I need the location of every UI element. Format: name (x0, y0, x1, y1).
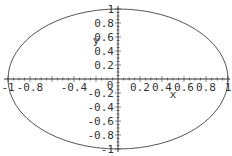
x-tick-label: -0.8 (17, 81, 44, 94)
x-tick-label: 0.2 (130, 81, 150, 94)
x-tick-label: 1 (225, 81, 232, 94)
x-tick-label: 0 (107, 79, 114, 92)
plot-area: 1 0.8 0.6 0.4 0.2 -0.2 -0.4 -0.6 -0.8 -1… (0, 0, 232, 156)
y-tick-label: -0.8 (88, 129, 115, 142)
y-tick-label: 1 (107, 3, 114, 16)
y-axis-label: y (93, 34, 100, 47)
x-axis-label: x (170, 88, 177, 101)
y-tick-label: -0.4 (88, 101, 115, 114)
y-tick-label: -0.6 (88, 115, 115, 128)
x-tick-label: 0.6 (174, 81, 194, 94)
x-tick-label: -0.4 (61, 81, 88, 94)
x-tick-label: 0.8 (196, 81, 216, 94)
y-tick-label: -1 (101, 143, 114, 156)
circle-chart: 1 0.8 0.6 0.4 0.2 -0.2 -0.4 -0.6 -0.8 -1… (0, 0, 232, 156)
y-tick-label: 0.8 (94, 17, 114, 30)
x-tick-label: -1 (1, 81, 14, 94)
y-tick-label: 0.2 (94, 59, 114, 72)
